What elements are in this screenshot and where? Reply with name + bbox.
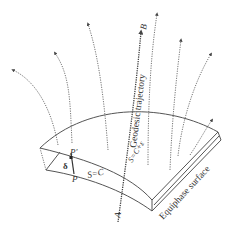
ray-arrow-5 [170, 40, 181, 170]
ray-arrow-4 [148, 14, 157, 165]
slab-left-diagonal [46, 152, 60, 170]
diagram-canvas: B A P' P δ S=C S=C+ε Geodesic trajectory… [0, 0, 232, 226]
label-p: P [71, 174, 78, 184]
ray-arrow-1 [13, 70, 58, 145]
label-s-equals-c: S=C [86, 167, 105, 180]
ray-trajectories [13, 14, 212, 170]
ray-arrow-2 [55, 53, 72, 143]
label-b: B [138, 23, 149, 31]
label-p-prime: P' [69, 147, 78, 157]
label-geodesic-trajectory: Geodesic trajectory [128, 73, 147, 148]
ray-arrow-3 [88, 24, 108, 150]
slab-left-hidden-edge [40, 148, 46, 170]
ray-arrow-6 [178, 54, 211, 156]
label-a: A [112, 211, 123, 220]
label-delta: δ [63, 161, 68, 171]
